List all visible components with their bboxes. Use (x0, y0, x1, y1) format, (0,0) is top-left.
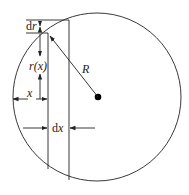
label-dx: dx (52, 121, 64, 135)
radius-line (50, 36, 98, 97)
label-R: R (81, 62, 90, 76)
circle-strip-diagram: dr r(x) R x dx (0, 0, 189, 195)
label-dr: dr (26, 19, 37, 33)
label-x: x (26, 86, 33, 100)
label-rx: r(x) (29, 59, 47, 73)
